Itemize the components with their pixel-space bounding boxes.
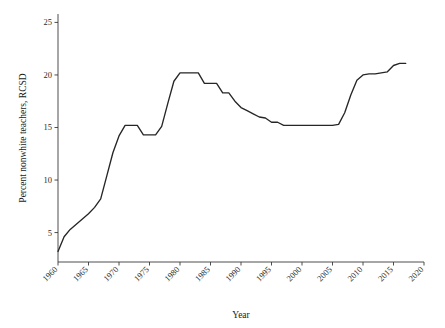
x-tick-group: 1960196519701975198019851990199520002005… (40, 262, 425, 283)
line-chart: 510152025 196019651970197519801985199019… (0, 0, 445, 328)
data-line (58, 63, 406, 251)
x-axis: 1960196519701975198019851990199520002005… (40, 262, 425, 283)
x-tick-label: 2005 (315, 264, 334, 283)
x-tick-label: 1975 (132, 264, 151, 283)
chart-container: 510152025 196019651970197519801985199019… (0, 0, 445, 328)
x-tick-label: 2000 (284, 264, 303, 283)
y-axis: 510152025 (44, 14, 59, 262)
y-tick-label: 20 (44, 70, 53, 80)
y-tick-label: 10 (44, 175, 53, 185)
x-tick-label: 2020 (406, 264, 425, 283)
x-tick-label: 1965 (71, 264, 90, 283)
y-tick-label: 5 (48, 228, 52, 238)
y-axis-title: Percent nonwhite teachers, RCSD (18, 73, 28, 202)
x-axis-title: Year (232, 310, 250, 320)
x-tick-label: 2010 (345, 264, 364, 283)
y-tick-label: 25 (44, 17, 53, 27)
y-tick-group: 510152025 (44, 17, 59, 237)
x-tick-label: 1995 (254, 264, 273, 283)
x-tick-label: 1985 (193, 264, 212, 283)
x-tick-label: 1970 (101, 264, 120, 283)
x-tick-label: 1980 (162, 264, 181, 283)
data-series-group (58, 63, 406, 251)
y-tick-label: 15 (44, 122, 53, 132)
x-tick-label: 1960 (40, 264, 59, 283)
x-tick-label: 1990 (223, 264, 242, 283)
x-tick-label: 2015 (376, 264, 395, 283)
